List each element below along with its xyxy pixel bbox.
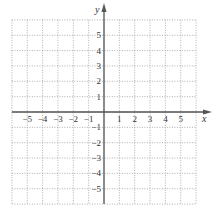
x-tick-label: −5 xyxy=(22,114,32,124)
y-tick-label: 2 xyxy=(97,76,102,86)
x-tick-label: 3 xyxy=(148,114,153,124)
y-tick-label: −2 xyxy=(91,138,101,148)
y-tick-label: −3 xyxy=(91,153,101,163)
y-axis-label: y xyxy=(94,4,100,15)
x-tick-label: −2 xyxy=(69,114,79,124)
y-axis-arrow-icon xyxy=(102,3,107,12)
axes xyxy=(12,3,212,204)
x-tick-label: −4 xyxy=(38,114,48,124)
y-tick-label: 4 xyxy=(97,46,102,56)
y-tick-label: 3 xyxy=(97,61,102,71)
y-tick-label: −4 xyxy=(91,168,101,178)
y-tick-label: 1 xyxy=(97,92,102,102)
coordinate-plane: −5−4−3−2−11234554321−1−2−3−4−5 x y xyxy=(0,0,213,215)
x-tick-label: 4 xyxy=(163,114,168,124)
x-tick-label: 5 xyxy=(179,114,184,124)
y-tick-label: 5 xyxy=(97,30,102,40)
x-tick-label: 1 xyxy=(117,114,122,124)
x-tick-label: −3 xyxy=(53,114,63,124)
y-tick-label: −5 xyxy=(91,184,101,194)
y-tick-label: −1 xyxy=(91,122,101,132)
x-tick-label: 2 xyxy=(132,114,137,124)
x-axis-label: x xyxy=(201,113,207,124)
